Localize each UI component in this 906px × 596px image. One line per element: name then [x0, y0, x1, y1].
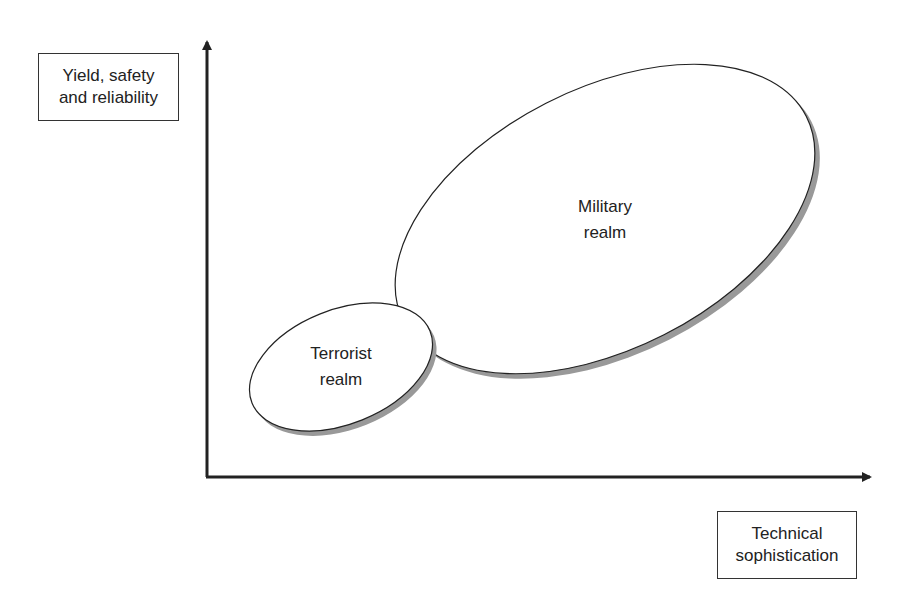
x-axis-label-line2: sophistication: [735, 545, 838, 567]
y-axis-label-line2: and reliability: [59, 87, 158, 109]
x-axis-label-line1: Technical: [752, 523, 823, 545]
terrorist-label-line2: realm: [320, 370, 363, 389]
military-label-line2: realm: [584, 223, 627, 242]
y-axis-label-box: Yield, safety and reliability: [38, 53, 179, 121]
x-axis-label-box: Technical sophistication: [717, 511, 857, 579]
terrorist-label-line1: Terrorist: [310, 344, 372, 363]
military-label-line1: Military: [578, 197, 632, 216]
y-axis-label-line1: Yield, safety: [63, 65, 155, 87]
